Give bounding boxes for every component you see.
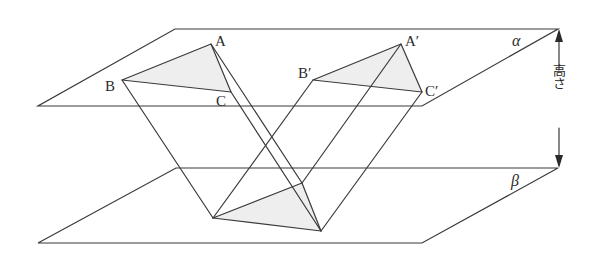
label-b-prime: B′ [298, 65, 311, 81]
label-beta: β [510, 172, 519, 190]
label-c-prime: C′ [425, 83, 438, 99]
label-a-prime: A′ [405, 33, 419, 49]
label-alpha: α [512, 32, 521, 49]
prism-diagram: A B C A′ B′ C′ α β 高さ [0, 0, 604, 260]
arrow-up-icon [555, 29, 563, 42]
edge-c-prime-bottom [321, 92, 422, 231]
label-c: C [216, 93, 226, 109]
arrow-down-icon [555, 155, 563, 168]
label-a: A [215, 33, 226, 49]
edge-b-bottom [122, 80, 213, 218]
triangle-abc-prime-fill [313, 44, 422, 92]
height-label: 高さ [552, 63, 567, 90]
label-b: B [105, 78, 115, 94]
